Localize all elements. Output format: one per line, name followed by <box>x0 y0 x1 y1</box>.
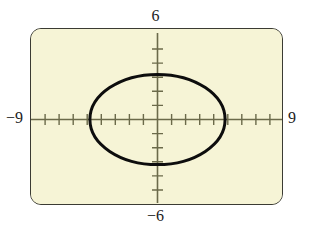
y-max-label: 6 <box>0 8 311 24</box>
x-min-label: −9 <box>6 110 23 126</box>
y-min-label: −6 <box>0 208 311 224</box>
x-max-label: 9 <box>288 110 296 126</box>
graph-plot-area <box>31 29 282 204</box>
cropped-header-text <box>40 0 280 4</box>
plot-background <box>31 29 282 204</box>
graph-svg <box>31 29 282 204</box>
calculator-screen-frame <box>30 28 283 205</box>
